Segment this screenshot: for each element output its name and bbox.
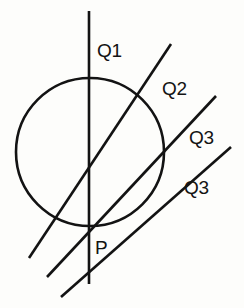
label-q3-upper: Q3 (189, 128, 214, 147)
label-q1: Q1 (97, 41, 122, 60)
label-point-p: P (95, 238, 107, 257)
label-q3-lower: Q3 (184, 178, 209, 197)
label-q2: Q2 (162, 79, 187, 98)
geometry-diagram: Q1 Q2 Q3 Q3 P (0, 0, 244, 308)
diagram-canvas (0, 0, 244, 308)
